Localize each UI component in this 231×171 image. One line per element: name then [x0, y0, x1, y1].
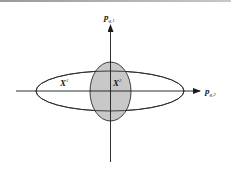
vertical-axis-label: pg,1 — [103, 12, 115, 24]
horizontal-axis-label: pg,2 — [204, 86, 216, 98]
region-x1-label: X1 — [59, 78, 69, 88]
set-diagram: pg,1 pg,2 X1 X2 — [0, 0, 231, 171]
